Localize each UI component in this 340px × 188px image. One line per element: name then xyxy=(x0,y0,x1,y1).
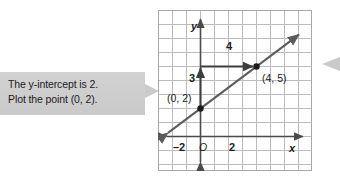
point-4-5 xyxy=(253,63,259,69)
y-axis-label: y xyxy=(191,20,197,32)
coordinate-graph: y x O –2 2 3 4 (0, 2) (4, 5) xyxy=(158,10,312,171)
run-label: 4 xyxy=(226,40,232,52)
instruction-callout-text: The y-intercept is 2. Plot the point (0,… xyxy=(8,77,142,107)
x-axis-label: x xyxy=(289,142,295,154)
point-0-2 xyxy=(197,105,203,111)
rise-label: 3 xyxy=(189,72,195,84)
point-label-0-2: (0, 2) xyxy=(167,92,192,104)
right-callout-pointer xyxy=(322,57,340,71)
instruction-callout: The y-intercept is 2. Plot the point (0,… xyxy=(0,72,145,115)
origin-label: O xyxy=(199,141,207,153)
point-label-4-5: (4, 5) xyxy=(262,72,287,84)
instruction-callout-pointer xyxy=(145,84,159,98)
x-tick-label-2: 2 xyxy=(229,141,235,153)
x-tick-label-neg2: –2 xyxy=(173,141,185,153)
